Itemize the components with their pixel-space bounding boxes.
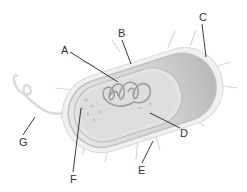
label-g: G: [19, 137, 28, 148]
label-e: E: [138, 165, 145, 176]
label-c: C: [199, 12, 207, 23]
label-d: D: [180, 128, 188, 139]
label-f: F: [70, 174, 77, 185]
label-a: A: [61, 45, 68, 56]
flagellum: [14, 75, 68, 113]
bacterial-cell-diagram: A B C D E F G: [0, 0, 247, 192]
label-b: B: [118, 28, 125, 39]
